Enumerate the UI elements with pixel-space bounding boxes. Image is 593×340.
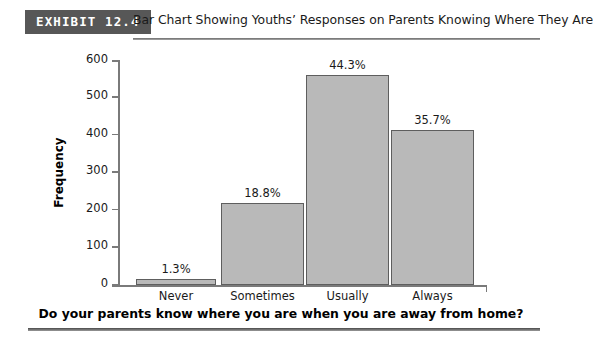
y-axis-title: Frequency: [52, 60, 68, 285]
y-tick-label-300: 300: [86, 163, 108, 177]
y-tick-100: 100: [112, 246, 118, 248]
bar-always: 35.7%: [391, 130, 474, 285]
y-tick-label-600: 600: [86, 52, 108, 66]
y-tick-label-400: 400: [86, 126, 108, 140]
exhibit-badge: EXHIBIT 12.4: [25, 10, 151, 34]
page-title: Bar Chart Showing Youths’ Responses on P…: [133, 12, 593, 27]
y-tick-300: 300: [112, 171, 118, 173]
y-tick-label-500: 500: [86, 88, 108, 102]
y-tick-label-0: 0: [101, 276, 108, 290]
y-tick-200: 200: [112, 209, 118, 211]
footer-divider: [28, 328, 540, 331]
x-category-never: Never: [159, 289, 193, 303]
x-category-always: Always: [412, 289, 452, 303]
y-tick-label-100: 100: [86, 238, 108, 252]
exhibit-header: EXHIBIT 12.4 Bar Chart Showing Youths’ R…: [0, 0, 562, 44]
x-category-usually: Usually: [327, 289, 369, 303]
bar-usually: 44.3%: [306, 75, 389, 285]
x-axis-line: [112, 285, 487, 287]
bar-label-usually: 44.3%: [329, 58, 366, 72]
bar-never: 1.3%: [136, 279, 216, 285]
y-tick-500: 500: [112, 96, 118, 98]
header-divider: [133, 38, 540, 40]
x-category-sometimes: Sometimes: [230, 289, 295, 303]
plot-area: 0 100 200 300 400 500 600 1.3% 18.8% 44.…: [118, 60, 487, 285]
bar-chart: Frequency 0 100 200 300 400 500 600 1.3%: [0, 44, 562, 302]
x-axis-title: Do your parents know where you are when …: [0, 306, 562, 321]
bar-label-sometimes: 18.8%: [244, 186, 281, 200]
y-tick-600: 600: [112, 60, 118, 62]
y-axis-line: [118, 60, 120, 285]
y-tick-0: 0: [112, 284, 118, 286]
bar-sometimes: 18.8%: [221, 203, 304, 285]
bar-label-always: 35.7%: [414, 113, 451, 127]
y-tick-400: 400: [112, 134, 118, 136]
y-tick-label-200: 200: [86, 201, 108, 215]
x-axis-endcap: [486, 285, 488, 292]
bar-label-never: 1.3%: [161, 262, 190, 276]
